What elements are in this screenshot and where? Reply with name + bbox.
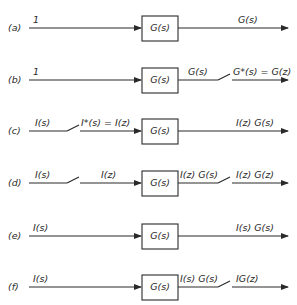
row-a: (a) 1 G(s) G(s) [8,14,288,41]
input-label: 1 [33,14,39,25]
output-label: IG(z) [236,273,259,284]
row-label: (c) [8,125,21,136]
block-label: G(s) [150,22,170,33]
input-label: I(s) [35,117,50,128]
sampler-switch-icon [218,177,230,183]
block-label: G(s) [150,177,170,188]
block-label: G(s) [150,281,170,292]
mid-label: I(z) G(s) [180,169,218,180]
block-label: G(s) [150,230,170,241]
row-label: (f) [8,281,19,292]
output-label: G*(s) = G(z) [233,66,291,77]
diagram-canvas: (a) 1 G(s) G(s) (b) 1 G(s) G(s) G*(s) = … [0,0,297,305]
sampler-switch-icon [218,281,230,287]
input-label: I(s) [35,169,50,180]
output-label: G(s) [238,14,258,25]
sampler-switch-icon [218,74,230,80]
row-label: (d) [8,177,21,188]
sampled-label: I*(s) = I(z) [81,117,130,128]
mid-label: I(s) G(s) [180,273,218,284]
row-d: (d) I(s) I(z) G(s) I(z) G(s) I(z) G(z) [8,169,288,196]
block-label: G(s) [150,125,170,136]
input-label: 1 [33,66,39,77]
mid-label: G(s) [188,66,208,77]
input-label: I(s) [33,273,48,284]
row-f: (f) I(s) G(s) I(s) G(s) IG(z) [8,273,288,300]
row-c: (c) I(s) I*(s) = I(z) G(s) I(z) G(s) [8,117,288,144]
row-e: (e) I(s) G(s) I(s) G(s) [8,222,288,249]
row-b: (b) 1 G(s) G(s) G*(s) = G(z) [8,66,291,93]
sampled-label: I(z) [101,169,116,180]
output-label: I(z) G(z) [236,169,274,180]
sampler-switch-icon [67,177,79,183]
block-label: G(s) [150,74,170,85]
output-label: I(z) G(s) [236,117,274,128]
output-label: I(s) G(s) [236,222,274,233]
input-label: I(s) [33,222,48,233]
row-label: (a) [8,22,21,33]
row-label: (b) [8,74,21,85]
row-label: (e) [8,230,21,241]
sampler-switch-icon [67,125,79,131]
